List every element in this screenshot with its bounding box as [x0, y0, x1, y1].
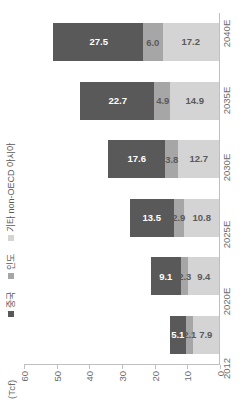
x-axis-tick-label: 2035E — [221, 82, 232, 120]
y-axis-tick-mark — [89, 365, 90, 369]
bar-segment[interactable]: 4.9 — [154, 82, 170, 120]
x-axis-tick-label: 2025E — [221, 216, 232, 254]
bar-series-container: 7.92.15.19.42.39.110.82.913.512.73.817.6… — [24, 13, 219, 364]
bar-value-label: 9.1 — [159, 272, 172, 282]
bar-value-label: 22.7 — [108, 96, 127, 106]
bar-value-label: 7.9 — [199, 330, 212, 340]
bar-segment[interactable]: 2.9 — [174, 199, 183, 237]
bar-segment[interactable]: 5.1 — [170, 316, 187, 354]
bar-value-label: 3.8 — [165, 155, 178, 165]
stacked-bar-chart: (Tcf) 중국 인도 기타 non-OECD 아시아 010203040506… — [0, 0, 251, 403]
legend-swatch-india — [8, 273, 14, 279]
bar-value-label: 10.8 — [192, 213, 211, 223]
bar-segment[interactable]: 17.6 — [108, 140, 165, 178]
bar-group[interactable]: 7.92.15.1 — [24, 316, 219, 354]
legend-item-china[interactable]: 중국 — [4, 292, 17, 317]
legend-item-india[interactable]: 인도 — [4, 254, 17, 279]
x-axis-tick-label: 2030E — [221, 149, 232, 187]
bar-value-label: 14.9 — [185, 96, 204, 106]
y-axis-tick-label: 10 — [182, 371, 193, 397]
y-axis-unit-label: (Tcf) — [6, 380, 17, 399]
bar-value-label: 6.0 — [146, 38, 159, 48]
bar-segment[interactable]: 2.1 — [186, 316, 193, 354]
x-axis-ticks: 20122020E2025E2030E2035E2040E — [221, 0, 232, 402]
y-axis-tick-label: 60 — [19, 371, 30, 397]
bar-segment[interactable]: 9.4 — [188, 257, 219, 295]
bar-group[interactable]: 14.94.922.7 — [24, 82, 219, 120]
bar-segment[interactable]: 10.8 — [184, 199, 219, 237]
legend-label-other-non-oecd-asia: 기타 non-OECD 아시아 — [4, 143, 17, 232]
bar-segment[interactable]: 6.0 — [143, 23, 163, 61]
bar-segment[interactable]: 2.3 — [181, 257, 189, 295]
chart-rotation-wrapper: (Tcf) 중국 인도 기타 non-OECD 아시아 010203040506… — [0, 0, 251, 403]
x-axis-tick-label: 2020E — [221, 283, 232, 321]
bar-segment[interactable]: 27.5 — [53, 23, 143, 61]
bar-group[interactable]: 9.42.39.1 — [24, 257, 219, 295]
x-axis-tick-label: 2012 — [221, 350, 232, 388]
y-axis-tick-mark — [122, 365, 123, 369]
bar-value-label: 9.4 — [197, 272, 210, 282]
plot-area: 0102030405060 7.92.15.19.42.39.110.82.91… — [24, 13, 220, 365]
chart-legend: 중국 인도 기타 non-OECD 아시아 — [4, 143, 17, 317]
legend-swatch-other-non-oecd-asia — [8, 235, 14, 241]
y-axis-tick-mark — [24, 365, 25, 369]
legend-swatch-china — [8, 311, 14, 317]
y-axis-tick-label: 50 — [51, 371, 62, 397]
bar-value-label: 17.2 — [182, 38, 201, 48]
bar-segment[interactable]: 22.7 — [80, 82, 154, 120]
legend-label-china: 중국 — [4, 292, 17, 308]
bar-group[interactable]: 12.73.817.6 — [24, 140, 219, 178]
bar-segment[interactable]: 3.8 — [165, 140, 177, 178]
bar-value-label: 2.9 — [172, 213, 185, 223]
bar-value-label: 27.5 — [89, 38, 108, 48]
bar-segment[interactable]: 14.9 — [170, 82, 219, 120]
y-axis-tick-label: 30 — [117, 371, 128, 397]
bar-value-label: 5.1 — [171, 330, 184, 340]
bar-segment[interactable]: 9.1 — [151, 257, 181, 295]
x-axis-line — [219, 13, 220, 365]
bar-segment[interactable]: 7.9 — [193, 316, 219, 354]
y-axis-tick-mark — [57, 365, 58, 369]
y-axis-tick-mark — [155, 365, 156, 369]
bar-segment[interactable]: 12.7 — [178, 140, 219, 178]
legend-item-other-non-oecd-asia[interactable]: 기타 non-OECD 아시아 — [4, 143, 17, 241]
x-axis-tick-label: 2040E — [221, 15, 232, 53]
bar-value-label: 13.5 — [143, 213, 162, 223]
bar-group[interactable]: 17.26.027.5 — [24, 23, 219, 61]
bar-segment[interactable]: 17.2 — [163, 23, 219, 61]
bar-group[interactable]: 10.82.913.5 — [24, 199, 219, 237]
bar-segment[interactable]: 13.5 — [130, 199, 174, 237]
legend-label-india: 인도 — [4, 254, 17, 270]
y-axis-tick-label: 20 — [149, 371, 160, 397]
bar-value-label: 12.7 — [189, 155, 208, 165]
bar-value-label: 4.9 — [156, 96, 169, 106]
bar-value-label: 17.6 — [127, 155, 146, 165]
y-axis-tick-mark — [187, 365, 188, 369]
y-axis-tick-label: 40 — [84, 371, 95, 397]
